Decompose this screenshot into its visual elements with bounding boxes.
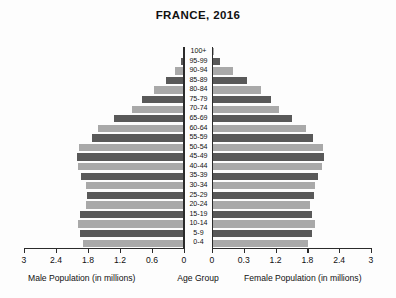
male-bar-row xyxy=(24,66,184,76)
female-bar-row xyxy=(212,219,371,229)
male-axis-tick-label: 2.4 xyxy=(43,255,69,265)
male-axis-tick xyxy=(88,248,89,253)
male-bar xyxy=(79,144,184,151)
age-group-label: 40-44 xyxy=(185,162,212,172)
age-group-label: 5-9 xyxy=(185,229,212,239)
male-bar-row xyxy=(24,57,184,67)
male-bar xyxy=(166,77,184,84)
female-bar-row xyxy=(212,143,371,153)
female-bar xyxy=(212,173,318,180)
female-x-axis xyxy=(212,248,371,249)
male-bar xyxy=(87,192,184,199)
female-bars-group xyxy=(212,47,371,248)
female-axis-tick xyxy=(276,248,277,253)
male-bar-row xyxy=(24,210,184,220)
age-group-label: 10-14 xyxy=(185,219,212,229)
male-x-axis xyxy=(24,248,184,249)
female-bar-row xyxy=(212,95,371,105)
female-bar-row xyxy=(212,181,371,191)
female-bar xyxy=(212,211,312,218)
female-bar-row xyxy=(212,210,371,220)
male-bar-row xyxy=(24,152,184,162)
female-bar-row xyxy=(212,85,371,95)
female-bar xyxy=(212,144,323,151)
age-group-label: 25-29 xyxy=(185,191,212,201)
female-axis-tick xyxy=(212,248,213,253)
female-bar xyxy=(212,86,261,93)
age-group-label: 35-39 xyxy=(185,171,212,181)
age-group-label: 0-4 xyxy=(185,238,212,248)
male-bar-row xyxy=(24,143,184,153)
female-bar-row xyxy=(212,152,371,162)
female-bar-row xyxy=(212,57,371,67)
male-bar-row xyxy=(24,238,184,248)
female-bar xyxy=(212,201,310,208)
male-bar xyxy=(80,230,184,237)
male-bar-row xyxy=(24,85,184,95)
female-axis-tick-label: 1.8 xyxy=(294,255,320,265)
male-axis-tick xyxy=(184,248,185,253)
female-axis-tick-label: 0.3 xyxy=(231,255,257,265)
male-bar-row xyxy=(24,181,184,191)
male-bar xyxy=(80,211,184,218)
male-bar-row xyxy=(24,162,184,172)
female-bar-row xyxy=(212,238,371,248)
age-group-label: 70-74 xyxy=(185,104,212,114)
female-bar-row xyxy=(212,114,371,124)
female-bar-row xyxy=(212,171,371,181)
female-bar xyxy=(212,192,314,199)
age-group-label: 100+ xyxy=(185,47,212,57)
female-bar xyxy=(212,67,233,74)
female-bar xyxy=(212,58,220,65)
male-axis-tick-label: 1.2 xyxy=(107,255,133,265)
age-group-label: 95-99 xyxy=(185,57,212,67)
female-axis-tick xyxy=(339,248,340,253)
male-bar xyxy=(83,240,184,247)
male-bar xyxy=(78,163,184,170)
age-group-label: 45-49 xyxy=(185,152,212,162)
chart-title: FRANCE, 2016 xyxy=(0,9,396,21)
female-axis-tick xyxy=(244,248,245,253)
male-bar xyxy=(132,106,184,113)
female-bar-row xyxy=(212,200,371,210)
male-bar xyxy=(81,173,184,180)
male-bar-row xyxy=(24,124,184,134)
age-group-label: 90-94 xyxy=(185,66,212,76)
age-group-label: 30-34 xyxy=(185,181,212,191)
male-bar-row xyxy=(24,200,184,210)
male-bar-row xyxy=(24,95,184,105)
male-bar-row xyxy=(24,104,184,114)
age-group-label: 15-19 xyxy=(185,210,212,220)
male-bars-group xyxy=(24,47,184,248)
male-axis-tick xyxy=(24,248,25,253)
age-group-label: 50-54 xyxy=(185,143,212,153)
male-bar-row xyxy=(24,191,184,201)
female-bar-row xyxy=(212,104,371,114)
male-bar xyxy=(78,220,184,227)
male-bar xyxy=(98,125,184,132)
male-bar-row xyxy=(24,133,184,143)
age-group-labels: 100+95-9990-9485-8980-8475-7970-7465-696… xyxy=(185,47,212,248)
male-bar xyxy=(92,134,184,141)
female-bar-row xyxy=(212,47,371,57)
male-bar xyxy=(86,201,184,208)
female-axis-tick xyxy=(307,248,308,253)
male-bar-row xyxy=(24,219,184,229)
female-bar xyxy=(212,240,308,247)
male-axis-tick-label: 3 xyxy=(11,255,37,265)
population-pyramid-chart: FRANCE, 2016 100+95-9990-9485-8980-8475-… xyxy=(0,0,396,298)
male-bar xyxy=(77,153,184,160)
female-bar xyxy=(212,182,315,189)
female-axis-tick-label: 3 xyxy=(358,255,384,265)
female-bar xyxy=(212,134,313,141)
male-axis-tick xyxy=(56,248,57,253)
age-group-label: 60-64 xyxy=(185,124,212,134)
male-bar-row xyxy=(24,171,184,181)
female-bar-row xyxy=(212,229,371,239)
female-bar-row xyxy=(212,76,371,86)
male-bar xyxy=(154,86,184,93)
female-bar xyxy=(212,106,279,113)
female-bar xyxy=(212,230,312,237)
male-bar xyxy=(142,96,184,103)
female-bar xyxy=(212,125,306,132)
